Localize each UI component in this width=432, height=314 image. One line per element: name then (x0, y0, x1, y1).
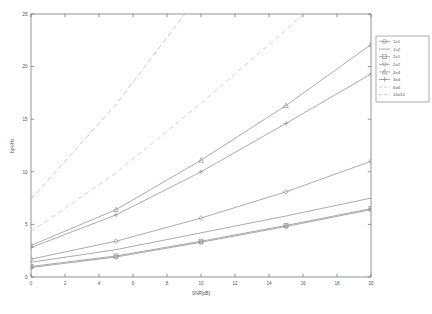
series-1x2 (31, 198, 371, 262)
legend-label-4x4: 4x4 (393, 70, 401, 75)
y-axis-title: bps/Hz (10, 138, 15, 153)
y-tick-label: 5 (25, 222, 28, 227)
legend-label-1x2: 1x2 (393, 47, 401, 52)
axis-frame (31, 14, 371, 277)
legend-label-10x10: 10x10 (393, 92, 406, 97)
legend-label-3x4: 3x4 (393, 77, 401, 82)
series-line-3x4 (31, 74, 371, 248)
x-tick-label: 14 (266, 281, 272, 286)
figure-container: 024681012141618200510152025SNR[dB]bps/Hz… (0, 0, 432, 314)
x-tick-label: 12 (232, 281, 238, 286)
x-tick-label: 16 (300, 281, 306, 286)
capacity-vs-snr-chart: 024681012141618200510152025SNR[dB]bps/Hz… (0, 0, 432, 314)
y-tick-label: 15 (22, 117, 28, 122)
x-tick-label: 6 (132, 281, 135, 286)
legend-label-6x6: 6x6 (393, 85, 401, 90)
x-tick-label: 2 (64, 281, 67, 286)
series-line-2x1 (31, 209, 371, 267)
y-tick-label: 10 (22, 170, 28, 175)
series-4x4 (29, 42, 374, 247)
x-tick-label: 20 (368, 281, 374, 286)
series-line-10x10 (31, 0, 371, 199)
y-tick-label: 20 (22, 64, 28, 69)
x-tick-label: 0 (30, 281, 33, 286)
series-2x2 (29, 159, 374, 262)
series-line-1x2 (31, 198, 371, 262)
x-axis-title: SNR[dB] (192, 291, 210, 296)
legend-label-1x1: 1x1 (393, 39, 401, 44)
x-tick-label: 8 (166, 281, 169, 286)
legend: 1x11x22x12x24x43x46x610x10 (376, 36, 429, 102)
x-tick-label: 10 (198, 281, 204, 286)
series-10x10 (31, 0, 371, 199)
series-line-6x6 (31, 0, 371, 232)
y-tick-label: 0 (25, 275, 28, 280)
series-3x4 (29, 72, 374, 250)
legend-label-2x1: 2x1 (393, 54, 401, 59)
series-6x6 (31, 0, 371, 232)
y-tick-label: 25 (22, 12, 28, 17)
x-tick-label: 4 (98, 281, 101, 286)
x-tick-label: 18 (334, 281, 340, 286)
legend-label-2x2: 2x2 (393, 62, 401, 67)
